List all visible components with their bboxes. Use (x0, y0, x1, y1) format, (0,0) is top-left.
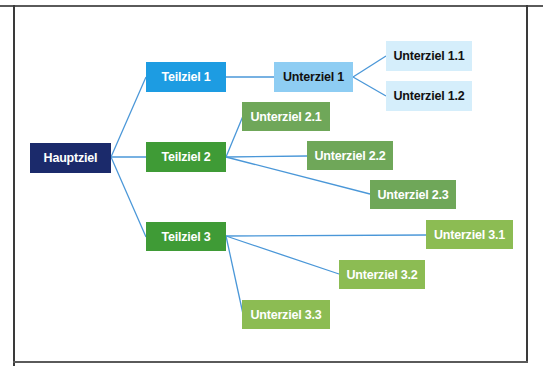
link-unterziel-1-unterziel-1-1 (353, 56, 386, 77)
link-hauptziel-teilziel-3 (111, 157, 146, 237)
node-unterziel-3-1: Unterziel 3.1 (426, 220, 513, 249)
node-label: Hauptziel (44, 151, 98, 165)
link-teilziel-3-unterziel-3-1 (226, 235, 426, 236)
node-label: Unterziel 1 (283, 70, 344, 84)
link-hauptziel-teilziel-1 (111, 77, 146, 157)
node-teilziel-1: Teilziel 1 (146, 62, 226, 92)
node-label: Teilziel 2 (161, 150, 210, 164)
node-unterziel-3-2: Unterziel 3.2 (339, 260, 425, 289)
link-teilziel-3-unterziel-3-3 (226, 236, 243, 314)
node-unterziel-2-3: Unterziel 2.3 (370, 180, 456, 209)
node-teilziel-2: Teilziel 2 (146, 142, 226, 172)
node-label: Unterziel 1.1 (393, 49, 464, 63)
link-teilziel-3-unterziel-3-2 (226, 236, 339, 274)
node-unterziel-2-1: Unterziel 2.1 (242, 102, 330, 131)
node-label: Unterziel 2.2 (314, 149, 385, 163)
node-label: Unterziel 2.3 (377, 188, 448, 202)
node-label: Unterziel 3.2 (346, 268, 417, 282)
node-label: Unterziel 2.1 (250, 110, 321, 124)
link-unterziel-1-unterziel-1-2 (353, 77, 386, 96)
node-label: Teilziel 3 (161, 230, 210, 244)
node-hauptziel: Hauptziel (30, 143, 111, 173)
node-label: Teilziel 1 (161, 70, 210, 84)
node-unterziel-2-2: Unterziel 2.2 (307, 141, 393, 170)
link-teilziel-2-unterziel-2-2 (226, 156, 307, 157)
node-unterziel-1: Unterziel 1 (274, 62, 353, 92)
node-label: Unterziel 3.1 (434, 228, 505, 242)
node-unterziel-1-1: Unterziel 1.1 (386, 41, 472, 71)
node-unterziel-3-3: Unterziel 3.3 (242, 300, 330, 329)
node-teilziel-3: Teilziel 3 (146, 222, 226, 251)
node-label: Unterziel 1.2 (393, 89, 464, 103)
node-label: Unterziel 3.3 (250, 308, 321, 322)
node-unterziel-1-2: Unterziel 1.2 (386, 81, 472, 111)
link-teilziel-2-unterziel-2-1 (226, 116, 243, 157)
